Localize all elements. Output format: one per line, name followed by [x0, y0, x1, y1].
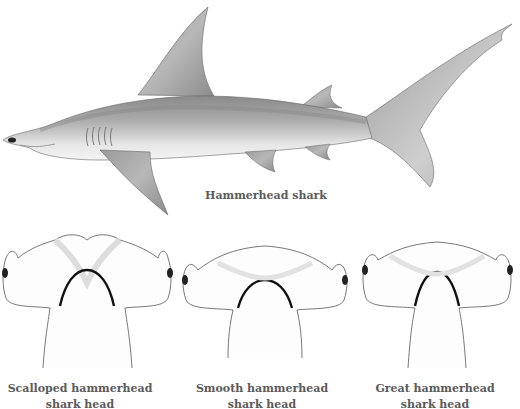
scalloped-head-caption: Scalloped hammerhead shark head	[0, 381, 160, 409]
caption-line-2: shark head	[360, 397, 510, 409]
hammerhead-shark-illustration	[0, 0, 520, 220]
smooth-head-caption: Smooth hammerhead shark head	[182, 381, 342, 409]
caption-line-1: Smooth hammerhead	[182, 381, 342, 397]
scalloped-hammerhead-head-illustration	[0, 228, 175, 373]
caption-line-2: shark head	[0, 397, 160, 409]
caption-line-1: Great hammerhead	[360, 381, 510, 397]
great-head-caption: Great hammerhead shark head	[360, 381, 510, 409]
main-caption: Hammerhead shark	[196, 188, 336, 204]
great-hammerhead-head-illustration	[350, 228, 520, 373]
smooth-hammerhead-head-illustration	[178, 228, 353, 373]
caption-line-1: Scalloped hammerhead	[0, 381, 160, 397]
caption-line-2: shark head	[182, 397, 342, 409]
